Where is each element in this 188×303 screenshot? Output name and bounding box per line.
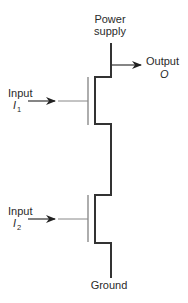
output-symbol: O <box>160 68 169 80</box>
input1-symbol: I <box>13 99 16 111</box>
ground-label: Ground <box>91 279 128 291</box>
power-supply-label-line1: Power <box>94 13 126 25</box>
input2-label: Input <box>8 205 32 217</box>
output-label: Output <box>146 55 179 67</box>
transistor-circuit-diagram: Power supply Output O Input I 1 Input I … <box>0 0 188 303</box>
power-supply-label-line2: supply <box>94 25 126 37</box>
input2-subscript: 2 <box>17 223 21 232</box>
supply-to-ground-wire <box>95 43 111 278</box>
input1-subscript: 1 <box>17 105 21 114</box>
input2-symbol: I <box>13 217 16 229</box>
input1-label: Input <box>8 87 32 99</box>
